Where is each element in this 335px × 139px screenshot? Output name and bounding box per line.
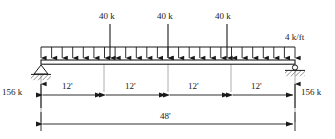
pin-support bbox=[31, 65, 51, 80]
point-load-label-2: 40 k bbox=[157, 12, 173, 21]
segment-dimension-label-1: 12' bbox=[62, 82, 73, 91]
beam-member bbox=[41, 60, 295, 64]
right-reaction-label: 156 k bbox=[301, 88, 321, 97]
total-span-label: 48' bbox=[160, 112, 171, 121]
segment-dimension-label-3: 12' bbox=[188, 82, 199, 91]
point-load-label-3: 40 k bbox=[215, 12, 231, 21]
segment-dimension-label-4: 12' bbox=[251, 82, 262, 91]
roller-support bbox=[285, 65, 305, 76]
point-load-label-1: 40 k bbox=[99, 12, 115, 21]
point-load-arrows bbox=[110, 24, 227, 58]
distributed-load-label: 4 k/ft bbox=[285, 33, 304, 42]
left-reaction-label: 156 k bbox=[2, 88, 22, 97]
segment-dimension-label-2: 12' bbox=[125, 82, 136, 91]
beam-free-body-diagram: 40 k 40 k 40 k 4 k/ft 156 k 156 k 12' 12… bbox=[0, 0, 335, 139]
